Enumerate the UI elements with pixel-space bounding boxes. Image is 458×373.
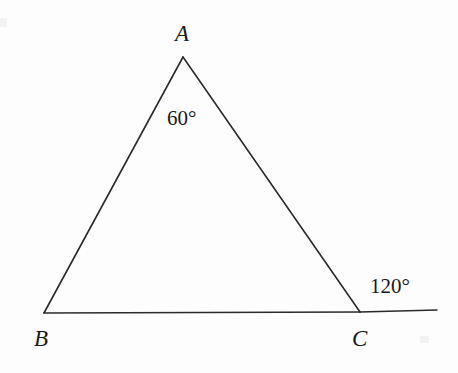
segment-ab [44, 57, 183, 313]
exterior-angle-label-at-c: 120° [370, 276, 410, 297]
segment-bc [44, 312, 360, 313]
ray-c-extension [360, 310, 437, 312]
vertex-label-a: A [175, 22, 189, 45]
vertex-label-c: C [352, 327, 367, 350]
geometry-figure: A B C 60° 120° [0, 0, 458, 373]
vertex-label-b: B [34, 327, 48, 350]
segment-ac [183, 57, 360, 312]
triangle-diagram-canvas [0, 0, 458, 373]
angle-label-at-a: 60° [167, 108, 196, 129]
scan-artifact-bottom-right [420, 336, 429, 343]
scan-artifact-top-left [0, 18, 7, 27]
